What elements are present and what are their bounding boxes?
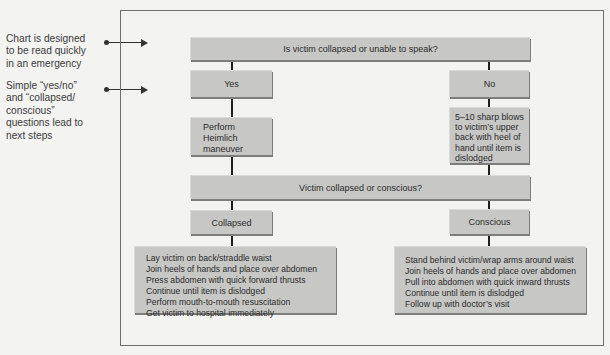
step-item: Join heels of hands and place over abdom… (146, 264, 336, 275)
action-back-blows-box: 5–10 sharp blows to victim’s upper back … (449, 107, 529, 163)
annotation-line: conscious” (6, 105, 106, 117)
action-heimlich-box: Perform Heimlich maneuver (190, 117, 272, 155)
action-line: hand until item is (455, 143, 529, 153)
step-item: Get victim to hospital immediately (146, 308, 336, 319)
annotation-line: to be read quickly (6, 45, 106, 57)
arrow-tail-dot-icon (104, 40, 109, 45)
action-line: back with heel of (455, 132, 529, 142)
connector-conscious-steps (488, 234, 490, 246)
annotation-line: questions lead to (6, 117, 106, 129)
question-collapsed-or-conscious: Victim collapsed or conscious? (190, 175, 530, 199)
step-item: Press abdomen with quick forward thrusts (146, 275, 336, 286)
answer-label: Yes (224, 79, 239, 89)
state-collapsed-box: Collapsed (190, 210, 272, 234)
state-label: Conscious (468, 217, 510, 227)
collapsed-steps-box: Lay victim on back/straddle waist Join h… (134, 246, 336, 313)
step-item: Pull into abdomen with quick inward thru… (405, 277, 586, 288)
step-item: Continue until item is dislodged (146, 286, 336, 297)
step-item: Stand behind victim/wrap arms around wai… (405, 255, 586, 266)
annotation-line: Chart is designed (6, 33, 106, 45)
connector-heimlich-q2 (231, 155, 233, 176)
step-item: Lay victim on back/straddle waist (146, 253, 336, 264)
action-line: Perform (203, 122, 272, 133)
action-line: 5–10 sharp blows (455, 112, 529, 122)
question-text: Victim collapsed or conscious? (299, 183, 422, 193)
annotation-emergency: Chart is designed to be read quickly in … (6, 33, 106, 70)
arrow-tail-dot-icon (104, 87, 109, 92)
action-line: maneuver (203, 144, 272, 155)
question-collapsed-or-unable-to-speak: Is victim collapsed or unable to speak? (190, 37, 530, 60)
annotation-line: in an emergency (6, 58, 106, 70)
annotation-line: and “collapsed/ (6, 92, 106, 104)
state-conscious-box: Conscious (449, 209, 529, 234)
connector-q2-collapsed (231, 199, 233, 210)
step-item: Continue until item is dislodged (405, 288, 586, 299)
action-line: dislodged (455, 153, 529, 163)
answer-no-box: No (449, 70, 529, 97)
step-item: Join heels of hands and place over abdom… (405, 266, 586, 277)
connector-yes-heimlich (231, 97, 233, 118)
action-line: to victim’s upper (455, 122, 529, 132)
connector-collapsed-steps (231, 234, 233, 246)
action-line: Heimlich (203, 133, 272, 144)
step-item: Follow up with doctor’s visit (405, 299, 586, 310)
answer-yes-box: Yes (190, 70, 272, 97)
annotation-line: next steps (6, 130, 106, 142)
answer-label: No (484, 79, 496, 89)
question-text: Is victim collapsed or unable to speak? (283, 44, 438, 54)
step-item: Perform mouth-to-mouth resuscitation (146, 297, 336, 308)
annotation-questions: Simple “yes/no” and “collapsed/ consciou… (6, 80, 106, 142)
annotation-line: Simple “yes/no” (6, 80, 106, 92)
state-label: Collapsed (211, 218, 251, 228)
conscious-steps-box: Stand behind victim/wrap arms around wai… (394, 246, 586, 313)
